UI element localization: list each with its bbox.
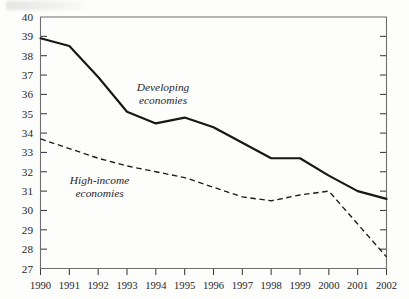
x-axis-tick-label: 1995 — [174, 280, 195, 291]
x-axis-tick-marks — [41, 269, 387, 276]
series-inline-labels: DevelopingeconomiesHigh-incomeeconomies — [69, 81, 190, 198]
x-axis-tick-label: 1992 — [88, 280, 109, 291]
x-axis-tick-label: 1996 — [203, 280, 224, 291]
line-chart-canvas: 4039383736353433323130292827 19901991199… — [0, 0, 409, 299]
y-axis-tick-label: 37 — [22, 69, 34, 81]
x-axis-tick-label: 1994 — [145, 280, 167, 291]
y-axis-tick-label: 28 — [22, 243, 34, 255]
x-axis-tick-label: 2000 — [318, 280, 339, 291]
x-axis-tick-label: 1999 — [289, 280, 310, 291]
x-axis-tick-label: 1990 — [30, 280, 51, 291]
y-axis-tick-labels: 4039383736353433323130292827 — [22, 11, 34, 275]
y-axis-tick-label: 31 — [22, 185, 33, 197]
y-axis-tick-label: 27 — [22, 263, 34, 275]
y-axis-tick-label: 33 — [22, 146, 34, 158]
y-axis-tick-marks-right — [380, 36, 387, 249]
series-label: Developingeconomies — [136, 81, 190, 106]
y-axis-tick-label: 40 — [22, 11, 34, 23]
x-axis-tick-label: 1998 — [261, 280, 282, 291]
y-axis-tick-label: 34 — [22, 127, 34, 139]
y-axis-tick-label: 35 — [22, 108, 34, 120]
x-axis-tick-label: 2001 — [347, 280, 368, 291]
x-axis-tick-label: 1991 — [59, 280, 80, 291]
chart-figure: 4039383736353433323130292827 19901991199… — [0, 0, 409, 299]
y-axis-tick-label: 38 — [22, 50, 34, 62]
y-axis-tick-label: 32 — [22, 166, 33, 178]
plot-area-border — [41, 17, 387, 269]
y-axis-tick-label: 29 — [22, 224, 34, 236]
y-axis-tick-label: 36 — [22, 88, 34, 100]
x-axis-tick-label: 2002 — [376, 280, 397, 291]
x-axis-tick-label: 1997 — [232, 280, 253, 291]
x-axis-tick-labels: 1990199119921993199419951996199719981999… — [30, 280, 397, 291]
series-label: High-incomeeconomies — [69, 174, 129, 199]
y-axis-tick-label: 30 — [22, 204, 34, 216]
y-axis-tick-marks — [41, 36, 48, 249]
x-axis-tick-label: 1993 — [116, 280, 137, 291]
y-axis-tick-label: 39 — [22, 30, 34, 42]
